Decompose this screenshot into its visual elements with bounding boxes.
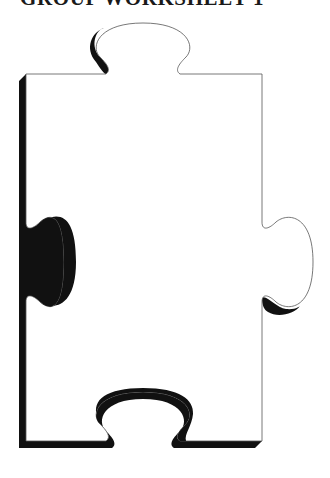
puzzle-piece-graphic: [0, 0, 330, 478]
